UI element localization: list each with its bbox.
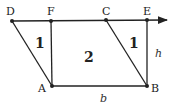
segment-da: [12, 21, 52, 86]
point-f-dot: [49, 19, 53, 23]
top-ray-line: [12, 20, 167, 21]
segment-cb: [106, 20, 147, 86]
point-d-label: D: [6, 5, 15, 18]
point-a-dot: [50, 84, 54, 88]
point-c-dot: [104, 18, 108, 22]
point-f-label: F: [47, 5, 55, 18]
height-label: h: [155, 47, 162, 60]
point-b-label: B: [151, 82, 159, 95]
region-triangle-right-label: 1: [129, 35, 139, 51]
point-a-label: A: [37, 82, 47, 95]
point-d-dot: [10, 19, 14, 23]
region-triangle-left-label: 1: [35, 35, 45, 51]
parallelogram-area-diagram: D F C E A B 1 2 1 b h: [0, 0, 171, 105]
region-rectangle-label: 2: [84, 49, 94, 65]
point-e-dot: [145, 18, 149, 22]
point-b-dot: [145, 84, 149, 88]
base-label: b: [100, 92, 107, 105]
point-e-label: E: [143, 5, 151, 18]
segment-fa: [51, 21, 52, 86]
point-c-label: C: [102, 5, 110, 18]
